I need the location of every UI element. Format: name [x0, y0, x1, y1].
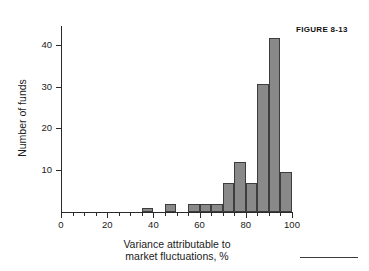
y-axis-tick-label: 40: [26, 39, 52, 50]
x-axis-tick: [61, 213, 62, 218]
histogram-bar: [269, 38, 281, 212]
histogram-bar: [211, 204, 223, 212]
x-axis-minor-tick: [223, 213, 224, 216]
x-axis-minor-tick: [142, 213, 143, 216]
histogram-bar: [223, 183, 235, 212]
histogram-bar: [246, 183, 258, 212]
y-axis-tick: [56, 128, 61, 129]
histogram-bar: [280, 172, 292, 212]
x-axis-minor-tick: [130, 213, 131, 216]
x-axis-tick-label: 0: [48, 219, 74, 230]
x-axis-tick: [292, 213, 293, 218]
x-axis-tick: [153, 213, 154, 218]
plot-canvas: 10203040020406080100: [0, 0, 369, 271]
x-axis-tick: [246, 213, 247, 218]
histogram-bar: [142, 208, 154, 212]
histogram-bar: [200, 204, 212, 212]
x-axis-minor-tick: [177, 213, 178, 216]
x-axis-minor-tick: [211, 213, 212, 216]
histogram-bar: [165, 204, 177, 212]
x-axis-minor-tick: [280, 213, 281, 216]
x-axis-tick-label: 80: [233, 219, 259, 230]
x-axis-minor-tick: [96, 213, 97, 216]
x-axis-tick: [200, 213, 201, 218]
y-axis-tick: [56, 170, 61, 171]
y-axis-title: Number of funds: [16, 53, 28, 183]
x-axis-minor-tick: [269, 213, 270, 216]
histogram-figure: FIGURE 8-13 10203040020406080100 Number …: [0, 0, 369, 271]
x-axis-minor-tick: [257, 213, 258, 216]
x-axis-tick-label: 60: [187, 219, 213, 230]
histogram-bar: [188, 204, 200, 212]
footer-rule: [300, 257, 358, 258]
x-axis-title-line-2: market fluctuations, %: [61, 250, 293, 262]
x-axis-minor-tick: [234, 213, 235, 216]
x-axis-tick-label: 20: [94, 219, 120, 230]
x-axis-tick: [107, 213, 108, 218]
x-axis-tick-label: 100: [279, 219, 305, 230]
x-axis-minor-tick: [84, 213, 85, 216]
y-axis-tick: [56, 45, 61, 46]
y-axis-line: [61, 26, 62, 213]
x-axis-title-line-1: Variance attributable to: [61, 238, 293, 250]
histogram-bar: [234, 162, 246, 212]
x-axis-minor-tick: [188, 213, 189, 216]
y-axis-tick: [56, 87, 61, 88]
x-axis-minor-tick: [119, 213, 120, 216]
y-axis-tick-label: 20: [26, 122, 52, 133]
x-axis-minor-tick: [73, 213, 74, 216]
y-axis-tick-label: 10: [26, 164, 52, 175]
x-axis-tick-label: 40: [140, 219, 166, 230]
x-axis-title: Variance attributable to market fluctuat…: [61, 238, 293, 262]
histogram-bar: [257, 84, 269, 212]
x-axis-minor-tick: [165, 213, 166, 216]
y-axis-tick-label: 30: [26, 81, 52, 92]
